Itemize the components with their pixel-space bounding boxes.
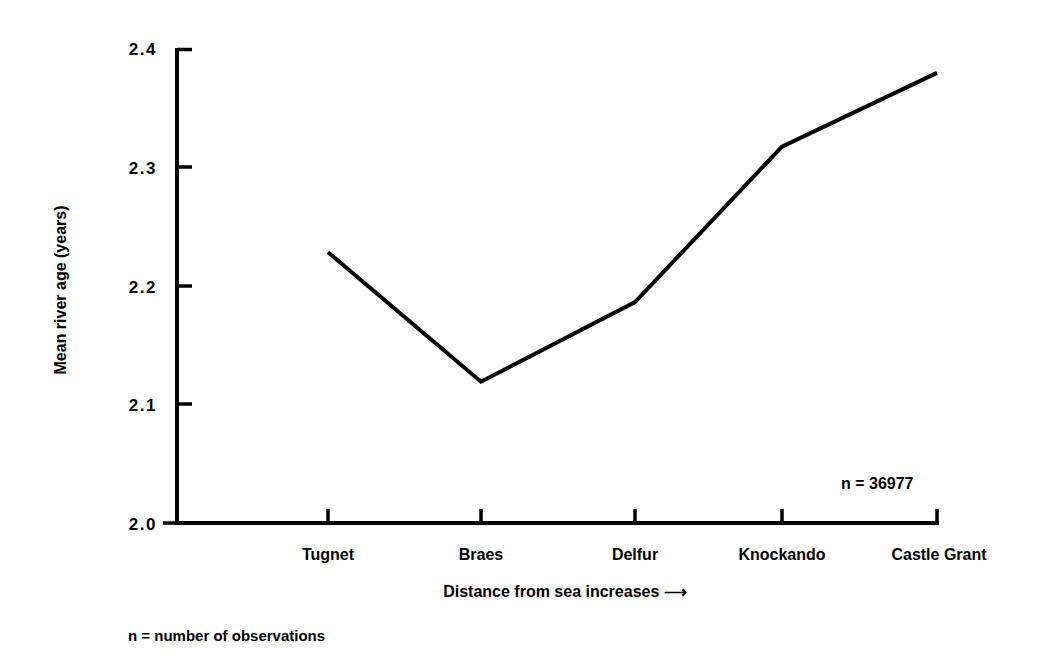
x-label-tugnet: Tugnet: [302, 546, 355, 563]
annotation-sample-size: n = 36977: [841, 475, 914, 492]
x-label-knockando: Knockando: [738, 546, 825, 563]
x-label-braes: Braes: [459, 546, 504, 563]
y-tick-label-2-2: 2.2: [129, 278, 157, 297]
x-axis-title: Distance from sea increases ⟶: [443, 583, 687, 600]
y-axis: [163, 48, 192, 525]
y-tick-label-2-3: 2.3: [129, 159, 157, 178]
y-tick-label-2-0: 2.0: [129, 515, 157, 534]
line-chart: 2.4 2.3 2.2 2.1 2.0 Mean river age (year…: [0, 0, 1041, 655]
footnote-text: n = number of observations: [128, 627, 325, 644]
series-line-mean-river-age: [328, 73, 937, 382]
x-label-castle-grant: Castle Grant: [891, 546, 987, 563]
y-axis-title: Mean river age (years): [52, 206, 69, 375]
y-tick-label-2-4: 2.4: [129, 40, 157, 59]
x-label-delfur: Delfur: [612, 546, 658, 563]
x-axis: [177, 509, 939, 523]
chart-page: 2.4 2.3 2.2 2.1 2.0 Mean river age (year…: [0, 0, 1041, 655]
y-tick-label-2-1: 2.1: [129, 396, 157, 415]
